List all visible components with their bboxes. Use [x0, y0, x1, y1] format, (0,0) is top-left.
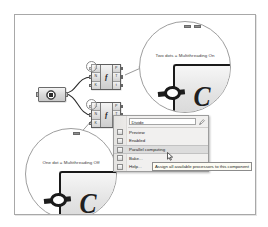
output-ports-top: P T t [112, 65, 121, 89]
input-port-n[interactable]: N [92, 73, 100, 81]
bake-icon [117, 155, 123, 161]
preview-icon [117, 129, 123, 135]
help-icon [117, 164, 123, 170]
divide-body-bottom[interactable]: ƒ [101, 103, 112, 127]
menu-item-label: Preview [129, 130, 145, 135]
output-port-t-upper[interactable]: T [113, 73, 121, 81]
divide-body-top[interactable]: ƒ [101, 65, 112, 89]
callout-multithreading-on: C Two dots = Multithreading On [139, 21, 231, 113]
zoomed-port-nub [50, 193, 67, 207]
menu-item-label: Bake... [129, 156, 143, 161]
menu-item-label: Enabled [129, 138, 145, 143]
input-port-k[interactable]: K [92, 82, 100, 89]
thread-dot [184, 25, 191, 28]
output-port-p[interactable]: P [113, 65, 121, 73]
parallel-computing-icon [117, 147, 123, 153]
menu-item-label: Parallel computing [129, 147, 165, 152]
zoomed-component-bottom: C [59, 171, 117, 215]
multithreading-dots-off [73, 132, 80, 135]
enabled-icon [117, 138, 123, 144]
highlight-circle-bottom [86, 99, 97, 110]
thread-dot [73, 132, 80, 135]
input-port-k[interactable]: K [92, 120, 100, 127]
menu-item-label: Help... [129, 164, 142, 169]
output-port-p[interactable]: P [113, 103, 121, 111]
zoomed-port-nub [164, 86, 181, 100]
highlight-circle-top [86, 61, 97, 72]
divide-glyph: ƒ [104, 72, 108, 82]
mouse-cursor [167, 152, 174, 161]
menu-item-parallel-computing[interactable]: Parallel computing [114, 145, 208, 154]
callout-multithreading-off: C One dot = Multithreading Off [25, 128, 117, 215]
zoomed-input-label-c: C [194, 81, 211, 111]
input-port-n[interactable]: N [92, 111, 100, 119]
multithreading-dots-on [184, 25, 201, 28]
rename-pen-icon[interactable] [198, 118, 206, 126]
curve-input-nub[interactable] [36, 92, 39, 97]
menu-header: Divide [114, 116, 208, 127]
curve-parameter-node[interactable] [38, 87, 66, 102]
thread-dot [194, 25, 201, 28]
menu-item-preview[interactable]: Preview [114, 128, 208, 137]
output-port-t-lower[interactable]: t [113, 82, 121, 89]
callout-label-bottom: One dot = Multithreading Off [26, 160, 116, 165]
menu-item-enabled[interactable]: Enabled [114, 137, 208, 146]
divide-glyph: ƒ [104, 110, 108, 120]
curve-icon [46, 90, 56, 100]
callout-label-top: Two dots = Multithreading On [140, 53, 230, 58]
grasshopper-canvas[interactable]: C N K ƒ P T t C N K ƒ P T t C [14, 14, 256, 215]
tooltip: Assign all available processors to this … [152, 162, 252, 171]
zoomed-input-label-c: C [80, 188, 97, 215]
curve-output-nub[interactable] [65, 92, 68, 97]
component-name-input[interactable]: Divide [129, 118, 196, 126]
